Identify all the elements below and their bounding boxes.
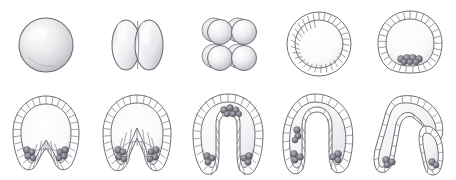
stage-zygote[interactable]: Zygote (2, 0, 90, 88)
early-gastrula (13, 96, 79, 170)
pluteus-embryo (374, 95, 443, 175)
embryo-development-figure: Sea urchin embryonic development sequenc… (0, 0, 456, 180)
zygote-cell (19, 18, 73, 72)
blastula-wall (287, 12, 351, 76)
stage-blastula[interactable]: Blastula (275, 0, 363, 88)
stage-prism[interactable]: Prism stage (275, 90, 363, 178)
mesenchyme-blastula-wall (378, 11, 442, 73)
stage-eight-cell[interactable]: 8-cell stage (184, 0, 272, 88)
late-gastrula (193, 94, 263, 176)
stage-two-cell[interactable]: 2-cell stage (93, 0, 181, 88)
stage-row-bottom: Early gastrula (0, 88, 456, 180)
stage-late-gastrula[interactable]: Late gastrula (184, 90, 272, 178)
stage-row-top: Zygote (0, 0, 456, 88)
eight-cell-blastomeres (202, 18, 257, 71)
prism-embryo (283, 94, 354, 174)
stage-pluteus[interactable]: Early pluteus (366, 90, 454, 178)
stage-mesenchyme-blastula[interactable]: Mesenchyme blastula (366, 0, 454, 88)
two-cell-blastomeres (112, 20, 163, 70)
primary-mesenchyme-cells (398, 54, 423, 65)
stage-mid-gastrula[interactable]: Mid gastrula (93, 90, 181, 178)
mid-gastrula (103, 95, 171, 171)
stage-early-gastrula[interactable]: Early gastrula (2, 90, 90, 178)
